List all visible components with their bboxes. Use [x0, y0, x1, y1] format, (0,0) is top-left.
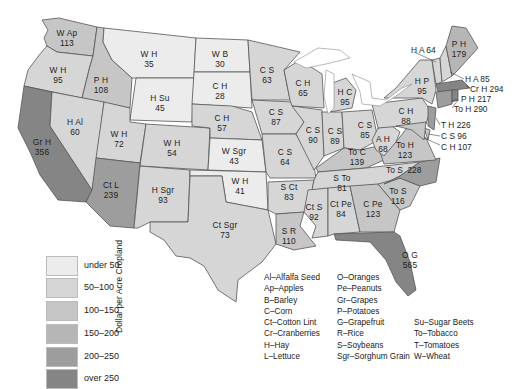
state-label-wy: H Su45	[150, 93, 169, 113]
lake-superior	[294, 48, 350, 68]
abbr-item: Al–Alfalfa Seed	[264, 272, 320, 283]
state-label-fl: O G565	[402, 250, 418, 270]
state-label-wv: A H68	[376, 134, 390, 154]
abbreviation-column-1: Al–Alfalfa Seed Ap–Apples B–Barley C–Cor…	[264, 272, 320, 362]
abbr-item: Sgr–Sorghum Grain	[337, 351, 410, 362]
legend-label: over 250	[84, 373, 119, 383]
abbr-item: L–Lettuce	[264, 351, 320, 362]
abbr-item: P–Potatoes	[337, 306, 410, 317]
legend-swatch	[46, 278, 78, 298]
state-label-ne: C H57	[214, 113, 229, 133]
state-label-nd: W B30	[212, 49, 228, 69]
state-label-tn: S To 81	[333, 173, 350, 193]
callout-md: C H 107	[441, 142, 472, 152]
abbr-item: Pe–Peanuts	[337, 283, 410, 294]
callout-de: C S 96	[441, 131, 467, 141]
abbr-item: C–Corn	[264, 306, 320, 317]
abbr-item: O–Oranges	[337, 272, 410, 283]
state-label-nv: H Al60	[67, 117, 83, 137]
abbreviation-column-2: O–Oranges Pe–Peanuts Gr–Grapes P–Potatoe…	[337, 272, 410, 362]
abbr-item: S–Soybeans	[337, 340, 410, 351]
lake-michigan	[324, 70, 334, 114]
state-label-al: Ct Pe84	[330, 199, 352, 219]
abbr-item: Su–Sugar Beets	[414, 317, 474, 328]
callout-vt: H A 64	[411, 45, 436, 55]
state-label-mt: W H35	[141, 49, 158, 69]
state-label-mn: C S63	[260, 65, 275, 85]
state-label-ut: W H72	[111, 129, 128, 149]
abbr-item: W–Wheat	[414, 351, 474, 362]
state-label-co: W H54	[164, 138, 181, 158]
state-label-la: S R110	[282, 226, 297, 246]
state-label-ok: W H41	[232, 176, 249, 196]
abbr-item: R–Rice	[337, 328, 410, 339]
abbr-item: H–Hay	[264, 340, 320, 351]
legend-label: 50–100	[84, 282, 114, 292]
callout-ct: P H 217	[461, 94, 491, 104]
legend-bin: 150–200	[46, 324, 166, 344]
legend-swatch	[46, 369, 78, 389]
state-label-ga: C Pe123	[363, 199, 382, 219]
state-label-az: Ct L239	[103, 180, 119, 200]
state-label-ms: Ct S92	[305, 202, 322, 222]
state-nj	[428, 106, 436, 130]
state-label-oh: C S85	[358, 120, 373, 140]
callout-nj: T H 226	[441, 120, 471, 130]
abbr-item: G–Grapefruit	[337, 317, 410, 328]
legend-label: 200–250	[84, 351, 119, 361]
legend-title: Dollar per Acre Cropland	[114, 240, 124, 333]
state-label-tx: Ct Sgr73	[213, 220, 238, 240]
legend-swatch	[46, 347, 78, 367]
abbr-item: Ap–Apples	[264, 283, 320, 294]
abbreviation-column-3: Su–Sugar Beets To–Tobacco T–Tomatoes W–W…	[414, 317, 474, 362]
state-label-or: W H95	[50, 65, 67, 85]
state-label-ca: Gr H356	[33, 137, 51, 157]
legend-swatch	[46, 301, 78, 321]
callout-nh: H A 85	[465, 74, 490, 84]
state-label-ar: S Ct83	[280, 182, 297, 202]
state-label-nc: To S 228	[386, 165, 421, 175]
state-label-mo: C S64	[278, 147, 293, 167]
callout-ri: To H 290	[454, 104, 488, 114]
state-label-sc: To S116	[389, 186, 407, 206]
legend-swatch	[46, 256, 78, 276]
legend-bin: 200–250	[46, 347, 166, 367]
state-label-in: C S89	[328, 126, 343, 146]
legend-bin: under 50	[46, 256, 166, 276]
abbr-item: Gr–Grapes	[337, 295, 410, 306]
callout-ma: Cr H 294	[470, 84, 504, 94]
state-label-wa: W Ap113	[57, 28, 78, 48]
legend-bin: 100–150	[46, 301, 166, 321]
state-ct	[436, 90, 452, 108]
state-label-ia: C S87	[269, 107, 284, 127]
state-label-ky: To C139	[348, 147, 366, 167]
state-label-va: To H123	[396, 140, 414, 160]
state-label-me: P H179	[452, 39, 467, 59]
state-label-ks: W Sgr43	[222, 146, 246, 166]
abbr-item: To–Tobacco	[414, 328, 474, 339]
legend-bin: over 250	[46, 369, 166, 389]
legend-swatch	[46, 324, 78, 344]
abbr-item: Ct–Cotton Lint	[264, 317, 320, 328]
state-label-il: C S90	[306, 125, 321, 145]
abbr-item: T–Tomatoes	[414, 340, 474, 351]
abbr-item: B–Barley	[264, 295, 320, 306]
state-label-id: P H108	[94, 75, 109, 95]
abbr-item: Cr–Cranberries	[264, 328, 320, 339]
state-label-mi: H C95	[337, 87, 352, 107]
state-label-sd: C H28	[212, 81, 227, 101]
state-label-pa: C H88	[398, 106, 413, 126]
state-label-ny: H P95	[415, 76, 430, 96]
state-label-wi: C H65	[295, 78, 310, 98]
legend-bin: 50–100	[46, 278, 166, 298]
state-label-nm: H Sgr93	[152, 185, 174, 205]
